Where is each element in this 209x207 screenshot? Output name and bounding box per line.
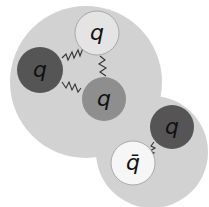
quark-medium: q <box>82 77 126 121</box>
quark-label: q <box>90 20 104 45</box>
quark-dark: q <box>17 47 63 93</box>
antiquark: q̄ <box>111 141 155 185</box>
hadron-diagram: q q q q q̄ <box>0 0 209 207</box>
quark-dark-meson: q <box>150 105 194 149</box>
antiquark-label: q̄ <box>126 150 140 175</box>
quark-label: q <box>165 114 179 139</box>
quark-label: q <box>33 57 47 82</box>
quark-label: q <box>97 86 111 111</box>
quark-light: q <box>75 11 119 55</box>
